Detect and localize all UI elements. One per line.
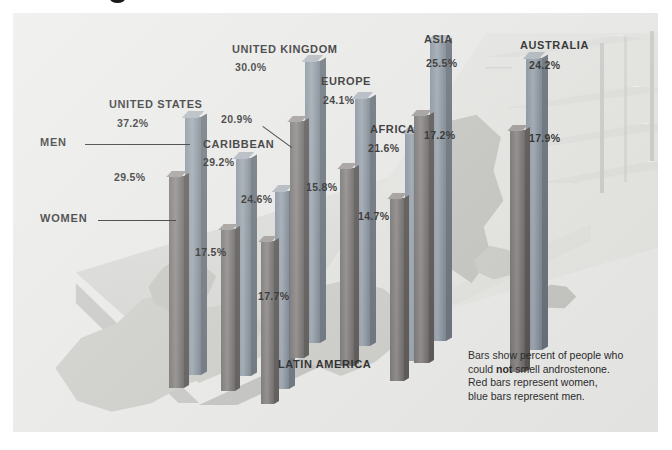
bar-side <box>251 155 257 376</box>
decor-shelf-post-left <box>600 43 604 193</box>
value-men-australia: 24.2% <box>529 59 560 71</box>
caption-line-4: blue bars represent men. <box>468 390 658 404</box>
value-women-africa: 14.7% <box>358 210 389 222</box>
chart-caption: Bars show percent of people who could no… <box>468 349 658 403</box>
bar-side <box>201 114 207 375</box>
bar-side <box>184 173 189 388</box>
value-men-africa: 21.6% <box>368 142 399 154</box>
bar-side <box>542 55 548 350</box>
region-label-africa: AFRICA <box>370 123 415 135</box>
bar-women-africa <box>390 198 404 381</box>
region-label-europe: EUROPE <box>321 75 371 87</box>
value-women-asia: 17.2% <box>424 129 455 141</box>
region-label-latin-america: LATIN AMERICA <box>278 358 371 370</box>
legend-leader-women <box>98 220 176 221</box>
decor-shelf-post-right <box>650 31 654 161</box>
value-men-united-kingdom: 30.0% <box>235 61 266 73</box>
value-men-asia: 25.5% <box>426 57 457 69</box>
value-men-europe: 24.1% <box>323 94 354 106</box>
value-women-europe: 15.8% <box>306 181 337 193</box>
value-women-australia: 17.9% <box>529 132 560 144</box>
bar-women-asia <box>414 115 429 363</box>
region-label-united-kingdom: UNITED KINGDOM <box>232 43 338 55</box>
bar-side <box>429 112 434 363</box>
bar-women-latin-america <box>261 241 274 404</box>
legend-label-men: MEN <box>40 136 67 148</box>
bar-women-australia <box>510 130 525 372</box>
bar-side <box>304 118 309 358</box>
caption-line-2: could not smell androstenone. <box>468 363 658 377</box>
bar-side <box>274 238 279 404</box>
value-women-united-kingdom: 20.9% <box>221 113 252 125</box>
region-label-united-states: UNITED STATES <box>109 98 203 110</box>
bar-side <box>354 165 359 366</box>
caption-emphasis-not: not <box>496 363 512 375</box>
bar-face <box>261 241 274 404</box>
bar-side <box>235 226 240 391</box>
bar-face <box>414 115 429 363</box>
legend-label-women: WOMEN <box>40 212 87 224</box>
value-women-united-states: 29.5% <box>114 171 145 183</box>
bar-side <box>446 38 452 341</box>
infographic-root: MEN WOMEN UNITED STATES CARIBBEAN LATIN … <box>0 0 672 450</box>
caption-line-2a: could <box>468 363 496 375</box>
value-men-united-states: 37.2% <box>117 117 148 129</box>
bar-side <box>525 127 530 372</box>
bar-face <box>340 168 354 366</box>
bar-women-europe <box>340 168 354 366</box>
bar-face <box>510 130 525 372</box>
value-women-latin-america: 17.7% <box>258 290 289 302</box>
region-label-australia: AUSTRALIA <box>520 39 589 51</box>
bar-face <box>169 176 184 388</box>
bar-side <box>404 195 409 381</box>
decor-shelf-post-mid <box>624 37 627 182</box>
value-men-latin-america: 24.6% <box>241 193 272 205</box>
value-women-caribbean: 17.5% <box>195 246 226 258</box>
bar-face <box>390 198 404 381</box>
caption-line-2c: smell androstenone. <box>512 363 609 375</box>
bar-women-united-states <box>169 176 184 388</box>
bar-women-united-kingdom <box>290 121 304 358</box>
value-men-caribbean: 29.2% <box>203 156 234 168</box>
cropped-glyph-remnant <box>110 0 125 3</box>
chart-panel: MEN WOMEN UNITED STATES CARIBBEAN LATIN … <box>13 13 658 432</box>
bar-face <box>290 121 304 358</box>
caption-line-1: Bars show percent of people who <box>468 349 658 363</box>
caption-line-3: Red bars represent women, <box>468 376 658 390</box>
region-label-caribbean: CARIBBEAN <box>203 138 274 150</box>
legend-leader-men <box>85 144 190 145</box>
region-label-asia: ASIA <box>424 33 453 45</box>
